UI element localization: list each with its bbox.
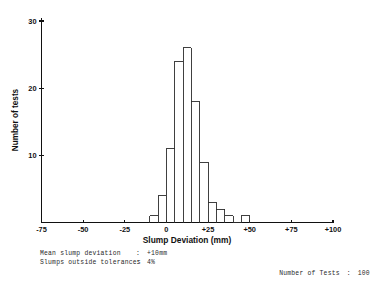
x-tick-label: +50 <box>243 225 256 234</box>
footer-stat-key: Mean slump deviation <box>40 249 136 258</box>
x-tick-label: -75 <box>36 225 47 234</box>
footer-stat-value: +10mm <box>147 250 167 257</box>
x-tick-label: -25 <box>119 225 130 234</box>
footer-left: Mean slump deviation: +10mmSlumps outsid… <box>40 249 167 267</box>
x-tick-label: +25 <box>202 225 215 234</box>
y-axis-title: Number of tests <box>11 88 20 151</box>
footer-stat-row: Slumps outside tolerances: 4% <box>40 258 167 267</box>
footer-right: Number of Tests : 100 <box>255 249 370 281</box>
axes-group <box>42 18 334 223</box>
x-tick-label: +100 <box>325 225 342 234</box>
footer-tests-row: Number of Tests : 100 <box>255 263 370 281</box>
footer-tests-key: Number of Tests <box>279 270 340 277</box>
y-tick-label: 30 <box>28 17 36 26</box>
x-tick-label: -50 <box>78 225 89 234</box>
x-axis-title: Slump Deviation (mm) <box>143 235 232 245</box>
y-tick-label: 10 <box>28 151 36 160</box>
y-tick-label: 20 <box>28 84 36 93</box>
footer-stat-value: 4% <box>147 259 155 266</box>
footer-tests-value: 100 <box>358 270 370 277</box>
x-tick-label: 0 <box>164 225 168 234</box>
footer-stat-key: Slumps outside tolerances <box>40 258 136 267</box>
footer-stat-row: Mean slump deviation: +10mm <box>40 249 167 258</box>
bars-group <box>150 48 250 223</box>
x-tick-label: +75 <box>285 225 298 234</box>
